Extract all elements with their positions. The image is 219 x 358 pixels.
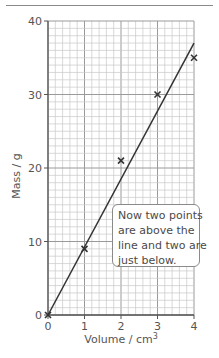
x-tick-label: 0 <box>45 320 52 333</box>
callout-line-4: just below. <box>118 253 195 268</box>
y-tick-label: 20 <box>28 162 42 175</box>
y-tick-label: 40 <box>28 15 42 28</box>
x-axis-title: Volume / cm3 <box>84 332 157 346</box>
callout-line-3: line and two are <box>118 238 195 253</box>
x-tick-label: 4 <box>191 320 198 333</box>
x-tick-label: 2 <box>118 320 125 333</box>
scatter-chart: 01020304001234Volume / cm3Mass / g <box>0 0 219 358</box>
grid <box>48 21 194 315</box>
y-axis-title: Mass / g <box>10 153 23 198</box>
y-tick-label: 30 <box>28 89 42 102</box>
annotation-callout: Now two points are above the line and tw… <box>112 204 200 267</box>
y-tick-label: 0 <box>35 309 42 322</box>
y-tick-label: 10 <box>28 236 42 249</box>
callout-line-2: are above the <box>118 223 195 238</box>
callout-line-1: Now two points <box>118 208 195 223</box>
x-tick-label: 1 <box>81 320 88 333</box>
